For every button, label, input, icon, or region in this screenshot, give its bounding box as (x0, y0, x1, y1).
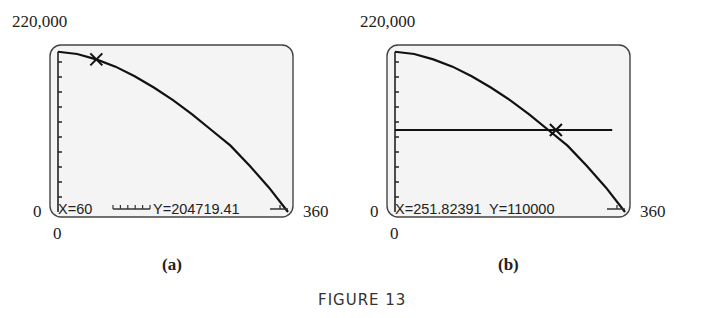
panel-b: 220,000 X=251.82391 Y=110000 0 0 360 (b) (360, 12, 666, 274)
y-max-label: 220,000 (360, 12, 415, 31)
panel-a: 220,000 X=60 Y=204719.41 0 0 360 (a) (12, 12, 329, 274)
figure-caption: FIGURE 13 (318, 291, 406, 309)
readout-y: Y=204719.41 (153, 201, 240, 217)
y-max-label: 220,000 (12, 12, 67, 31)
y-min-label: 0 (370, 202, 379, 221)
readout-x: X=251.82391 (395, 201, 482, 217)
readout-y: Y=110000 (489, 201, 554, 217)
x-min-label: 0 (53, 224, 62, 243)
figure: 220,000 X=60 Y=204719.41 0 0 360 (a) 220… (0, 0, 705, 318)
x-max-label: 360 (303, 202, 329, 221)
x-max-label: 360 (640, 202, 666, 221)
readout-x: X=60 (58, 201, 92, 217)
x-min-label: 0 (390, 224, 399, 243)
y-min-label: 0 (33, 202, 42, 221)
calculator-screen (50, 45, 293, 217)
panel-label: (b) (498, 255, 519, 274)
panel-label: (a) (162, 255, 182, 274)
